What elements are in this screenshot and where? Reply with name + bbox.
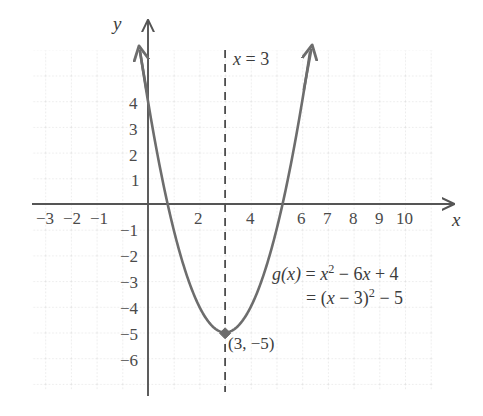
equation2-var-x: x [327,288,335,308]
y-tick-label-3: 3 [129,121,138,138]
x-tick-label-10: 10 [396,210,413,227]
x-tick-label-2: 2 [194,210,203,227]
equation-line-1: g(x) = x2 − 6x + 4 [272,262,403,286]
y-tick-label--1: −1 [120,222,138,239]
equation-minus-6: − 6 [334,264,362,284]
axis-of-symmetry-label-rest: = 3 [241,49,269,69]
x-tick-label--2: −2 [63,210,81,227]
x-axis-label: x [452,210,460,229]
y-tick-label--2: −2 [120,248,138,265]
parabola-figure: y x −3 −2 −1 2 4 6 7 8 9 10 4 3 2 1 −1 −… [0,0,483,416]
equation-var-x: x [320,264,328,284]
y-tick-label--5: −5 [120,326,138,343]
x-tick-label-9: 9 [375,210,384,227]
y-tick-label--3: −3 [120,274,138,291]
equation2-equals-open: = ( [306,288,327,308]
y-tick-label-4: 4 [129,95,138,112]
equation2-minus-3: − 3) [335,288,369,308]
equation-line-2: = (x − 3)2 − 5 [272,286,403,310]
y-tick-label--4: −4 [120,300,138,317]
equation-annotation: g(x) = x2 − 6x + 4 = (x − 3)2 − 5 [272,262,403,311]
equation-fn-arg: (x) [281,264,301,284]
x-tick-label--1: −1 [90,210,108,227]
y-tick-label-2: 2 [129,147,138,164]
x-tick-label-6: 6 [297,210,306,227]
vertex-coordinate-label: (3, −5) [228,335,274,352]
y-tick-label-1: 1 [131,172,140,189]
equation-fn-name: g [272,264,281,284]
y-tick-label--6: −6 [120,352,138,369]
x-tick-label-4: 4 [246,210,255,227]
x-tick-label-8: 8 [349,210,358,227]
x-tick-label--3: −3 [36,210,54,227]
y-axis-label: y [113,14,121,33]
equation-plus-4: + 4 [370,264,398,284]
axis-of-symmetry-label: x = 3 [233,50,269,68]
equation2-minus-5: − 5 [375,288,403,308]
equation-equals: = [301,264,320,284]
axis-of-symmetry-label-var: x [233,49,241,69]
x-tick-label-7: 7 [323,210,332,227]
